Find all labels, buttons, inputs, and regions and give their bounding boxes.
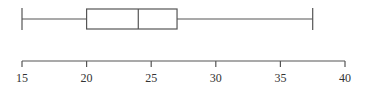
box-plot (22, 8, 313, 30)
x-axis-tick-label: 20 (81, 71, 93, 85)
x-axis: 152025303540 (16, 61, 351, 85)
x-axis-tick-label: 25 (145, 71, 157, 85)
x-axis-tick-label: 15 (16, 71, 28, 85)
x-axis-tick-label: 35 (274, 71, 286, 85)
x-axis-tick-label: 30 (210, 71, 222, 85)
interquartile-box (87, 9, 177, 29)
box-plot-chart: 152025303540 (0, 0, 365, 93)
x-axis-ticks: 152025303540 (16, 61, 351, 85)
x-axis-tick-label: 40 (339, 71, 351, 85)
